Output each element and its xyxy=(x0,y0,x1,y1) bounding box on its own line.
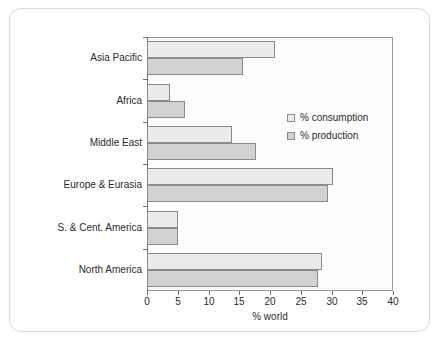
legend-swatch-consumption xyxy=(287,114,295,122)
x-axis-tick xyxy=(270,291,271,295)
y-axis-tick xyxy=(143,164,147,165)
y-axis-tick xyxy=(143,79,147,80)
x-axis-tick-label: 20 xyxy=(255,296,285,307)
legend-item-production: % production xyxy=(287,128,368,143)
x-axis-tick-label: 10 xyxy=(194,296,224,307)
x-axis-tick xyxy=(178,291,179,295)
category-label-north-america: North America xyxy=(0,264,142,276)
x-axis-tick xyxy=(393,291,394,295)
category-label-africa: Africa xyxy=(0,95,142,107)
chart-legend: % consumption % production xyxy=(287,110,368,146)
horizontal-bar-chart: North AmericaS. & Cent. AmericaEurope & … xyxy=(0,0,441,342)
category-label-europe-eurasia: Europe & Eurasia xyxy=(0,179,142,191)
legend-label-production: % production xyxy=(300,130,358,141)
category-axis-labels: North AmericaS. & Cent. AmericaEurope & … xyxy=(0,0,441,342)
x-axis-tick-label: 5 xyxy=(163,296,193,307)
x-axis-tick-label: 0 xyxy=(132,296,162,307)
x-axis-tick xyxy=(301,291,302,295)
legend-label-consumption: % consumption xyxy=(300,112,368,123)
legend-swatch-production xyxy=(287,132,295,140)
x-axis-title: % world xyxy=(147,311,393,322)
category-label-s-cent-america: S. & Cent. America xyxy=(0,222,142,234)
x-axis-tick xyxy=(209,291,210,295)
x-axis-tick-label: 30 xyxy=(317,296,347,307)
y-axis-tick xyxy=(143,122,147,123)
x-axis-tick xyxy=(362,291,363,295)
x-axis-tick-label: 40 xyxy=(378,296,408,307)
y-axis-tick xyxy=(143,37,147,38)
category-label-middle-east: Middle East xyxy=(0,137,142,149)
category-label-asia-pacific: Asia Pacific xyxy=(0,52,142,64)
y-axis-tick xyxy=(143,206,147,207)
x-axis-tick-label: 15 xyxy=(224,296,254,307)
y-axis-tick xyxy=(143,249,147,250)
x-axis-tick-label: 25 xyxy=(286,296,316,307)
legend-item-consumption: % consumption xyxy=(287,110,368,125)
x-axis-tick xyxy=(332,291,333,295)
x-axis-tick-label: 35 xyxy=(347,296,377,307)
x-axis-tick xyxy=(147,291,148,295)
x-axis-tick xyxy=(239,291,240,295)
